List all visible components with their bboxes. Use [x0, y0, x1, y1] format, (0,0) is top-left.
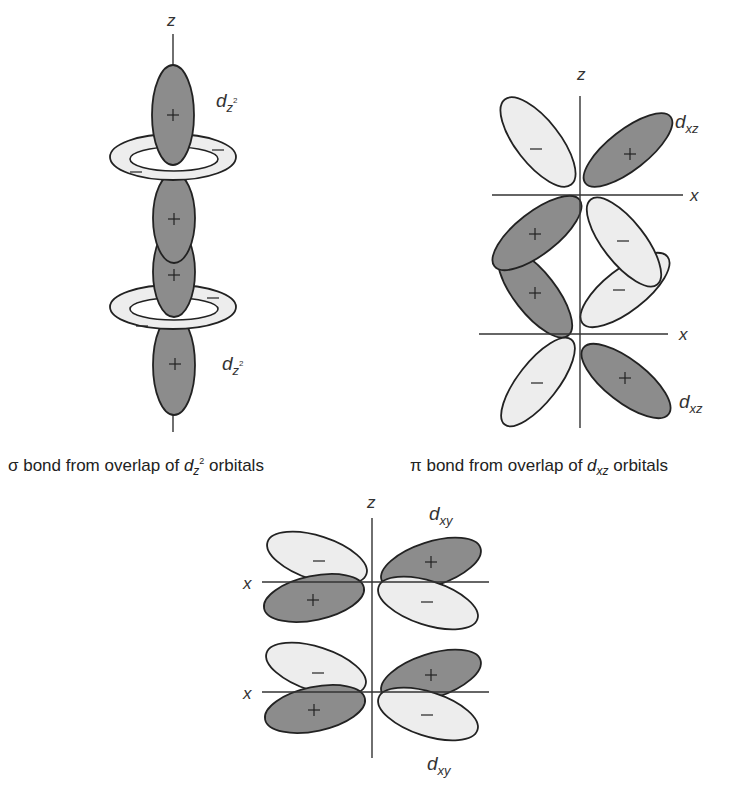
sigma-bond-figure: z dz2 dz2: [110, 11, 244, 432]
lobe-positive: [571, 331, 682, 431]
orbital-label-dxy-bottom: dxy: [427, 753, 452, 778]
pi-bond-figure: z x x dxz dxz: [479, 65, 703, 437]
sigma-caption: σ bond from overlap of dz2 orbitals: [8, 456, 264, 478]
orbital-overlap-diagram: .pos { fill:#8c8c8c; stroke:#222; stroke…: [0, 0, 730, 797]
pi-caption: π bond from overlap of dxz orbitals: [410, 456, 668, 478]
z-axis-label: z: [366, 493, 376, 512]
delta-bond-figure: z x x dxy dxy: [242, 493, 489, 778]
lobe-positive: [153, 315, 195, 415]
x-axis-label-top: x: [242, 574, 252, 593]
orbital-label-dz2-top: dz2: [216, 90, 238, 115]
x-axis-label-top: x: [689, 186, 699, 205]
orbital-label-dxy-top: dxy: [429, 503, 454, 528]
lobe-negative: [487, 86, 588, 198]
lobe-positive: [573, 101, 683, 199]
x-axis-label-bottom: x: [678, 325, 688, 344]
orbital-label-dxz-bottom: dxz: [679, 391, 703, 416]
z-axis-label: z: [166, 11, 176, 30]
orbital-label-dxz-top: dxz: [675, 111, 699, 136]
lobe-negative: [489, 327, 587, 437]
x-axis-label-bottom: x: [242, 684, 252, 703]
z-axis-label: z: [576, 65, 586, 84]
orbital-label-dz2-bottom: dz2: [222, 353, 244, 378]
